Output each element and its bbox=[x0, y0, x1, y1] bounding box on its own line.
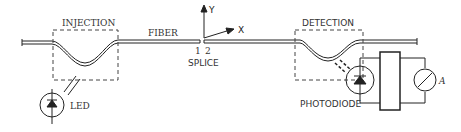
injection-label: INJECTION bbox=[62, 18, 115, 28]
led-light-rays bbox=[64, 76, 80, 95]
splice-point-2: 2 bbox=[205, 46, 211, 56]
axis-y-label: Y bbox=[208, 5, 215, 15]
ammeter-label: A bbox=[438, 76, 446, 86]
fiber-splice-diagram: INJECTION FIBER 1 2 SPLICE Y X DETECTION… bbox=[0, 0, 461, 132]
detector-circuit bbox=[360, 52, 436, 110]
led-icon bbox=[40, 89, 64, 124]
detection-box bbox=[295, 30, 363, 80]
detection-label: DETECTION bbox=[302, 18, 354, 28]
led-label: LED bbox=[70, 101, 90, 111]
injection-box bbox=[53, 30, 118, 80]
axes bbox=[201, 5, 234, 38]
axis-x-label: X bbox=[238, 25, 244, 35]
splice-point-1: 1 bbox=[195, 46, 201, 56]
right-fiber bbox=[204, 38, 417, 61]
photodiode-light-rays bbox=[335, 60, 350, 72]
left-fiber bbox=[22, 39, 200, 66]
amplifier-block bbox=[380, 52, 400, 110]
splice-label: SPLICE bbox=[188, 58, 219, 68]
fiber-label: FIBER bbox=[148, 28, 178, 38]
photodiode-icon bbox=[346, 58, 374, 103]
photodiode-label: PHOTODIODE bbox=[300, 99, 361, 109]
